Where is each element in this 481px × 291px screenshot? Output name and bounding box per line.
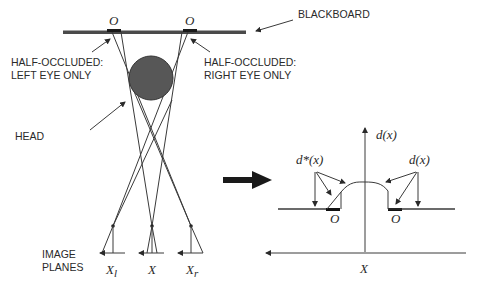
right-label-arrow-2: [396, 172, 417, 204]
half-occluded-left-arrow: [92, 39, 110, 52]
half-occluded-right-line2: RIGHT EYE ONLY: [204, 69, 291, 81]
x-axis-label: X: [359, 261, 369, 276]
foreground-disparity-curve: [327, 182, 388, 209]
stereo-occlusion-diagram: O O BLACKBOARD HALF-OCCLUDED: LEFT EYE O…: [0, 0, 481, 291]
graph-occluded-marker-right: O: [391, 211, 401, 226]
eye-label-cyclopean: X: [147, 262, 157, 277]
image-plane-right: [178, 224, 203, 253]
occluded-marker-right: O: [185, 13, 195, 28]
left-label-arrow-3: [317, 172, 345, 183]
image-plane-center: [139, 224, 164, 253]
graph-occluded-marker-left: O: [330, 211, 340, 226]
right-panel-disparity-graph: d(x) X O O d*(x) d(x): [266, 127, 466, 276]
blackboard-pointer-arrow: [256, 20, 293, 31]
head-label: HEAD: [15, 130, 45, 142]
occluded-segment-left: [107, 29, 121, 32]
image-plane-left: [100, 224, 125, 253]
eye-label-left: Xl: [105, 262, 117, 279]
image-planes-label-line1: IMAGE: [42, 248, 76, 260]
half-occluded-right-arrow: [191, 39, 210, 52]
half-occluded-left-line1: HALF-OCCLUDED:: [11, 56, 103, 68]
left-label-arrow-2: [316, 172, 331, 195]
sight-line-left-eye-inner: [113, 100, 172, 226]
transition-arrow: [223, 171, 272, 189]
half-occluded-left-line2: LEFT EYE ONLY: [11, 69, 91, 81]
image-planes-label-line2: PLANES: [42, 261, 83, 273]
blackboard-label: BLACKBOARD: [298, 8, 370, 20]
left-panel: O O BLACKBOARD HALF-OCCLUDED: LEFT EYE O…: [11, 8, 370, 279]
right-curve-label: d(x): [409, 152, 430, 167]
eye-label-right: Xr: [185, 262, 199, 279]
occluded-segment-right: [183, 29, 197, 32]
left-curve-label: d*(x): [296, 152, 323, 167]
y-axis-label: d(x): [376, 127, 397, 142]
half-occluded-right-line1: HALF-OCCLUDED:: [204, 56, 296, 68]
blackboard: [63, 31, 246, 35]
head: [129, 56, 173, 100]
head-pointer-arrow: [90, 102, 125, 130]
occluded-marker-left: O: [109, 13, 119, 28]
